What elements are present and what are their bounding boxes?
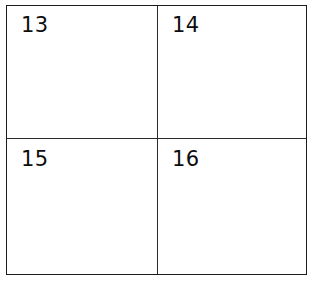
quadrant-grid: 13 14 15 16 xyxy=(6,5,307,275)
cell-label-top-left: 13 xyxy=(21,12,49,38)
grid-cell-top-right[interactable]: 14 xyxy=(158,6,305,138)
grid-cell-bottom-left[interactable]: 15 xyxy=(7,140,157,273)
cell-label-top-right: 14 xyxy=(172,12,200,38)
grid-cell-bottom-right[interactable]: 16 xyxy=(158,140,305,273)
grid-cell-top-left[interactable]: 13 xyxy=(7,6,157,138)
grid-divider-vertical xyxy=(157,6,158,274)
cell-label-bottom-left: 15 xyxy=(21,146,49,172)
grid-body: 13 14 15 16 xyxy=(7,6,306,274)
cell-label-bottom-right: 16 xyxy=(172,146,200,172)
grid-divider-horizontal xyxy=(7,138,306,139)
